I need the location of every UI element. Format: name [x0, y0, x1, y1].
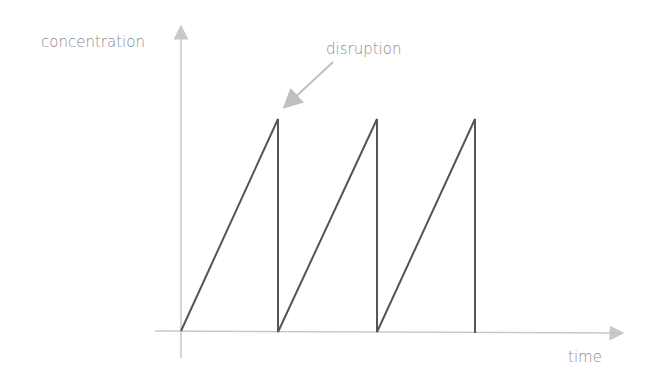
y-axis-label: concentration [41, 33, 145, 51]
sawtooth-line [181, 119, 475, 333]
annotation-arrow [290, 62, 333, 102]
x-axis-label: time [568, 348, 602, 366]
annotation-label: disruption [326, 40, 401, 58]
x-axis [155, 331, 617, 333]
